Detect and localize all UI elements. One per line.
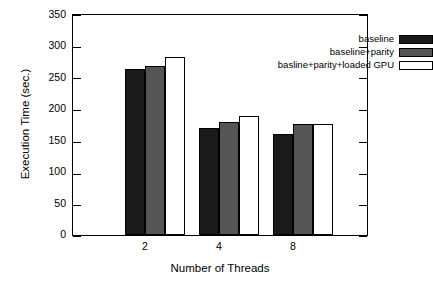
y-tick-300 (73, 47, 81, 48)
bar-baseline-8 (273, 134, 293, 235)
legend-entry-baseline-parity-loaded-gpu: basline+parity+loaded GPU (228, 59, 433, 71)
x-tick-label-2: 2 (125, 241, 165, 252)
y-tick-label-300: 300 (26, 40, 66, 51)
legend-label-baseline: baseline (359, 34, 394, 44)
legend-entry-baseline: baseline (228, 33, 433, 45)
x-tick-label-8: 8 (273, 241, 313, 252)
y-tick-right-200 (359, 110, 367, 111)
bar-baseline-parity-4 (219, 122, 239, 235)
y-tick-right-150 (359, 142, 367, 143)
bar-baseline-2 (125, 69, 145, 235)
bar-baseline-parity-loaded-gpu-2 (165, 57, 185, 235)
y-axis-title: Execution Time (sec.) (19, 24, 31, 224)
legend: baseline baseline+parity basline+parity+… (228, 33, 433, 72)
legend-entry-baseline-parity: baseline+parity (228, 46, 433, 58)
y-tick-right-100 (359, 174, 367, 175)
bar-baseline-parity-loaded-gpu-8 (313, 124, 333, 235)
y-tick-label-50: 50 (26, 198, 66, 209)
y-tick-right-0 (359, 236, 367, 237)
plot-area: baseline baseline+parity basline+parity+… (72, 14, 368, 236)
legend-swatch-baseline-parity (399, 48, 433, 57)
x-axis-title: Number of Threads (72, 262, 368, 274)
legend-swatch-baseline-parity-loaded-gpu (399, 61, 433, 70)
legend-label-baseline-parity: baseline+parity (330, 47, 394, 57)
y-tick-label-200: 200 (26, 103, 66, 114)
x-tick-label-4: 4 (199, 241, 239, 252)
legend-label-baseline-parity-loaded-gpu: basline+parity+loaded GPU (278, 60, 394, 70)
legend-swatch-baseline (399, 35, 433, 44)
bar-baseline-4 (199, 128, 219, 235)
y-tick-right-50 (359, 205, 367, 206)
bar-baseline-parity-2 (145, 66, 165, 235)
y-tick-350 (73, 15, 81, 16)
y-tick-label-0: 0 (26, 229, 66, 240)
y-tick-label-250: 250 (26, 72, 66, 83)
y-tick-label-350: 350 (26, 9, 66, 20)
y-tick-0 (73, 236, 81, 237)
y-tick-50 (73, 205, 81, 206)
y-tick-right-250 (359, 78, 367, 79)
y-tick-label-150: 150 (26, 135, 66, 146)
y-tick-200 (73, 110, 81, 111)
bar-baseline-parity-loaded-gpu-4 (239, 116, 259, 235)
y-tick-label-100: 100 (26, 166, 66, 177)
y-tick-150 (73, 142, 81, 143)
bar-baseline-parity-8 (293, 124, 313, 235)
y-tick-250 (73, 78, 81, 79)
y-tick-100 (73, 174, 81, 175)
y-tick-right-350 (359, 15, 367, 16)
